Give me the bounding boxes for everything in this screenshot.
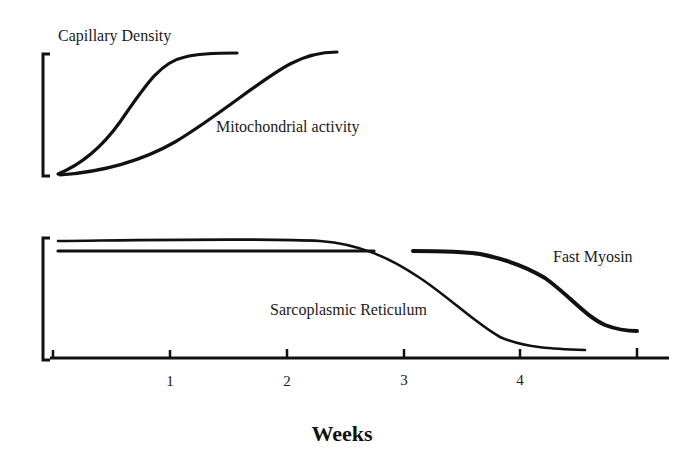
sarcoplasmic-reticulum-line [58,239,585,350]
x-axis-title: Weeks [311,421,372,447]
mitochondrial-activity-line [60,52,337,175]
chart-canvas [0,0,684,468]
x-tick-label-2: 2 [283,373,291,390]
mitochondrial-activity-label: Mitochondrial activity [216,118,360,136]
bottom-panel-bracket [43,238,50,360]
capillary-density-label: Capillary Density [58,27,171,45]
top-panel-bracket [43,54,50,176]
fast-myosin-label: Fast Myosin [553,248,633,266]
x-tick-label-4: 4 [516,372,524,389]
sarcoplasmic-reticulum-label: Sarcoplasmic Reticulum [270,301,427,319]
x-tick-label-1: 1 [166,373,174,390]
x-tick-label-3: 3 [400,372,408,389]
